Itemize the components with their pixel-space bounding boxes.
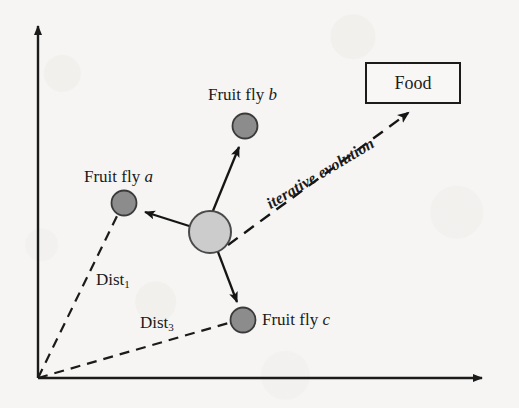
dist-1-line [38, 214, 118, 378]
fruit-fly-a-node[interactable] [112, 191, 137, 216]
fruit-fly-b-label-prefix: Fruit fly [208, 85, 268, 104]
fruit-fly-a-label-id: a [144, 167, 153, 186]
dist-1-label: Dist1 [96, 271, 130, 288]
dist-3-label-base: Dist [140, 313, 168, 332]
fruit-fly-c-label-prefix: Fruit fly [262, 310, 322, 329]
dist-1-label-base: Dist [96, 270, 124, 289]
fruit-fly-c-label: Fruit fly c [262, 311, 330, 328]
dist-3-label: Dist3 [140, 314, 174, 331]
fruit-fly-c-label-id: c [322, 310, 330, 329]
fruit-fly-c-node[interactable] [231, 308, 256, 333]
fruit-fly-b-label-id: b [268, 85, 277, 104]
fruit-fly-b-label: Fruit fly b [208, 86, 277, 103]
food-box[interactable]: Food [365, 62, 461, 104]
fruit-fly-swarm-origin-node[interactable] [189, 211, 231, 253]
fruit-fly-a-label-prefix: Fruit fly [84, 167, 144, 186]
dist-3-line [38, 322, 232, 378]
dist-1-label-subscript: 1 [124, 278, 130, 290]
fruit-fly-b-node[interactable] [233, 114, 258, 139]
dist-3-label-subscript: 3 [168, 321, 174, 333]
food-label: Food [394, 73, 431, 94]
arrow-to-fly-c [215, 244, 237, 302]
fruit-fly-optimization-figure: Food Fruit fly a Fruit fly b Fruit fly c… [0, 0, 519, 408]
fruit-fly-a-label: Fruit fly a [84, 168, 153, 185]
